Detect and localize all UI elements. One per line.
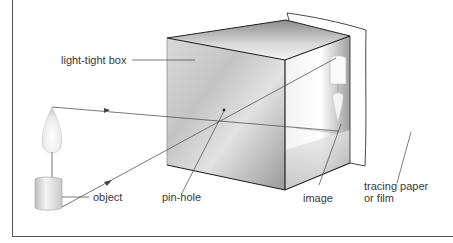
- label-pin-hole: pin-hole: [162, 191, 201, 203]
- label-image: image: [303, 192, 333, 204]
- box-front-face: [167, 38, 285, 190]
- label-or-film: or film: [364, 192, 394, 204]
- pinhole-camera-diagram: light-tight box object pin-hole image tr…: [0, 0, 453, 243]
- ray-arrow-icon: [104, 180, 112, 186]
- ray-arrow-icon: [104, 108, 110, 113]
- pin-hole-dot: [223, 109, 226, 112]
- candle-object: [35, 107, 62, 210]
- label-object: object: [93, 191, 122, 203]
- diagram-canvas: [0, 0, 453, 243]
- label-tracing-paper: tracing paper: [364, 180, 428, 192]
- label-light-tight-box: light-tight box: [61, 54, 126, 66]
- light-tight-box: [167, 20, 350, 190]
